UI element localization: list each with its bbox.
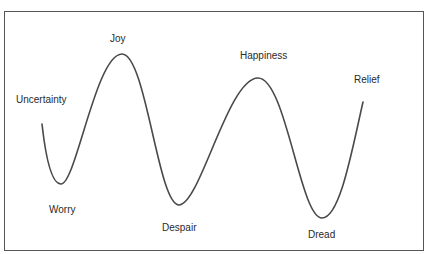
label-relief: Relief [354, 74, 380, 85]
label-worry: Worry [49, 204, 75, 215]
emotion-wave-diagram: Uncertainty Worry Joy Despair Happiness … [0, 0, 430, 254]
label-happiness: Happiness [240, 50, 287, 61]
label-uncertainty: Uncertainty [16, 94, 67, 105]
label-dread: Dread [308, 229, 335, 240]
label-joy: Joy [110, 33, 126, 44]
emotion-wave-curve [42, 54, 363, 218]
label-despair: Despair [162, 222, 197, 233]
